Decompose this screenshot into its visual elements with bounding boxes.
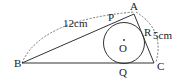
label-a: A <box>130 0 138 12</box>
label-r: R <box>144 26 152 38</box>
center-dot <box>123 39 125 41</box>
label-ab-length: 12cm <box>63 17 88 29</box>
label-c: C <box>157 60 164 72</box>
label-o: O <box>119 42 127 54</box>
label-b: B <box>14 57 21 69</box>
label-p: P <box>108 11 114 23</box>
label-ac-length: 5cm <box>153 29 172 41</box>
triangle-incircle-diagram: A B C P Q R O 12cm 5cm <box>0 0 178 79</box>
diagram-canvas: A B C P Q R O 12cm 5cm <box>0 0 178 79</box>
label-q: Q <box>119 66 127 78</box>
